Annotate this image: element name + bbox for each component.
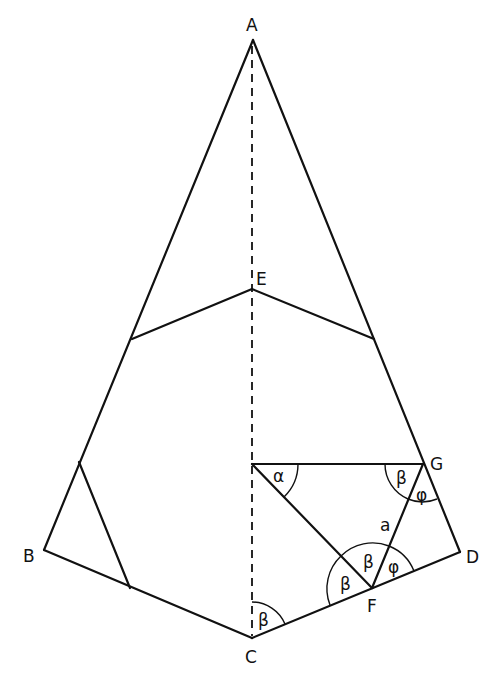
label-G: G [430, 454, 443, 474]
label-B: B [23, 546, 35, 566]
angle-beta-F-mid: β [363, 552, 374, 572]
side-BC [44, 550, 252, 638]
label-D: D [466, 547, 479, 567]
segment-E-left [132, 289, 252, 339]
geometry-diagram: A B C D E F G α β φ β β φ β a [0, 0, 494, 690]
angle-beta-G: β [396, 468, 407, 488]
segment-label-a: a [380, 515, 390, 535]
arc-alpha [284, 464, 298, 497]
arc-beta-F-left [327, 556, 341, 605]
label-A: A [246, 15, 258, 35]
side-CD [252, 552, 460, 638]
angle-beta-C: β [258, 610, 269, 630]
segment-diagonal [252, 464, 372, 588]
angle-alpha: α [273, 466, 284, 486]
side-AB [44, 40, 253, 550]
label-E: E [256, 269, 267, 289]
angle-phi-F: φ [388, 557, 399, 577]
label-C: C [245, 647, 257, 667]
angle-beta-F-left: β [340, 574, 351, 594]
angle-phi-G: φ [416, 485, 427, 505]
label-F: F [367, 596, 377, 616]
